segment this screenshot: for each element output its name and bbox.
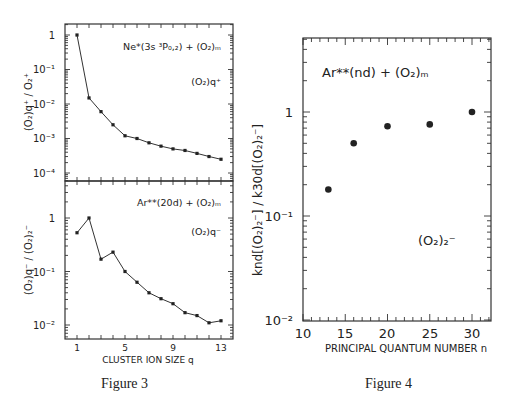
data-point bbox=[384, 123, 391, 130]
data-point bbox=[159, 297, 162, 300]
fig3-top-ytick-2: 10⁻² bbox=[33, 99, 55, 110]
fig4-ticks bbox=[303, 38, 491, 321]
data-point bbox=[469, 109, 476, 116]
data-point bbox=[99, 258, 102, 261]
fig4-xtick-3: 25 bbox=[422, 326, 439, 341]
fig3-bot-species: (O₂)q⁻ bbox=[191, 226, 221, 237]
fig4-frame bbox=[303, 38, 491, 321]
figure-3: 1 10⁻¹ 10⁻² 10⁻³ 10⁻⁴ 1 10⁻¹ 10⁻² 1 5 9 … bbox=[23, 24, 233, 365]
fig3-xtick-2: 9 bbox=[170, 343, 176, 353]
data-point bbox=[171, 147, 174, 150]
data-point bbox=[75, 33, 78, 36]
data-point bbox=[207, 321, 210, 324]
fig3-top-annotation: Ne*(3s ³P₀,₂) + (O₂)ₘ bbox=[123, 41, 221, 52]
data-point bbox=[350, 140, 357, 147]
fig3-top-ytick-3: 10⁻³ bbox=[33, 133, 55, 144]
fig4-xlabel: PRINCIPAL QUANTUM NUMBER n bbox=[325, 343, 487, 354]
fig3-xlabel: CLUSTER ION SIZE q bbox=[102, 355, 194, 365]
data-point bbox=[123, 270, 126, 273]
fig4-ylabel: knd[(O₂)₂⁻] / k30d[(O₂)₂⁻] bbox=[251, 124, 265, 276]
fig3-top-ytick-0: 1 bbox=[49, 30, 55, 41]
fig4-series bbox=[325, 109, 475, 193]
fig3-bot-ytick-1: 10⁻¹ bbox=[33, 267, 55, 278]
figure-4-caption: Figure 4 bbox=[365, 376, 412, 392]
fig3-top-species: (O₂)q⁺ bbox=[191, 76, 221, 87]
fig4-xtick-2: 20 bbox=[379, 326, 396, 341]
data-point bbox=[183, 149, 186, 152]
fig3-xtick-0: 1 bbox=[74, 343, 80, 353]
data-point bbox=[135, 281, 138, 284]
figure-3-caption: Figure 3 bbox=[101, 376, 148, 392]
data-point bbox=[87, 96, 90, 99]
data-point bbox=[111, 251, 114, 254]
fig3-bot-ytick-2: 10⁻² bbox=[33, 320, 55, 331]
data-point bbox=[195, 152, 198, 155]
data-point bbox=[426, 121, 433, 128]
fig4-species: (O₂)₂⁻ bbox=[418, 233, 456, 248]
fig4-xtick-0: 10 bbox=[295, 326, 312, 341]
fig4-annotation: Ar**(nd) + (O₂)ₘ bbox=[322, 65, 429, 80]
data-point bbox=[87, 216, 90, 219]
fig3-top-ytick-1: 10⁻¹ bbox=[33, 64, 55, 75]
fig4-ytick-0: 1 bbox=[285, 105, 293, 120]
fig3-bot-ylabel: (O₂)q⁻ / (O₂)₂⁻ bbox=[23, 225, 34, 295]
data-point bbox=[195, 314, 198, 317]
data-point bbox=[147, 291, 150, 294]
figure-canvas: 1 10⁻¹ 10⁻² 10⁻³ 10⁻⁴ 1 10⁻¹ 10⁻² 1 5 9 … bbox=[0, 0, 516, 406]
data-point bbox=[219, 319, 222, 322]
data-point bbox=[207, 155, 210, 158]
data-point bbox=[111, 123, 114, 126]
fig4-ytick-2: 10⁻² bbox=[264, 313, 293, 328]
data-point bbox=[135, 137, 138, 140]
series-line bbox=[77, 35, 221, 159]
data-point bbox=[123, 134, 126, 137]
data-point bbox=[171, 302, 174, 305]
fig4-xtick-1: 15 bbox=[337, 326, 354, 341]
figure-4: 1 10⁻¹ 10⁻² 10 15 20 25 30 PRINCIPAL QUA… bbox=[251, 38, 491, 354]
data-point bbox=[219, 158, 222, 161]
data-point bbox=[183, 311, 186, 314]
fig3-top-ytick-4: 10⁻⁴ bbox=[33, 168, 55, 179]
fig4-xtick-4: 30 bbox=[464, 326, 481, 341]
fig3-top-ylabel: (O₂)q⁺ / O₂⁺ bbox=[23, 73, 34, 131]
data-point bbox=[147, 141, 150, 144]
data-point bbox=[325, 186, 332, 193]
data-point bbox=[99, 110, 102, 113]
fig3-bot-ytick-0: 1 bbox=[49, 213, 55, 224]
data-point bbox=[75, 231, 78, 234]
data-point bbox=[159, 145, 162, 148]
fig3-xtick-3: 13 bbox=[215, 343, 226, 353]
fig3-top-series bbox=[75, 33, 222, 160]
fig3-xtick-1: 5 bbox=[122, 343, 128, 353]
fig3-bot-annotation: Ar**(20d) + (O₂)ₘ bbox=[137, 197, 221, 208]
fig4-ytick-1: 10⁻¹ bbox=[264, 209, 293, 224]
